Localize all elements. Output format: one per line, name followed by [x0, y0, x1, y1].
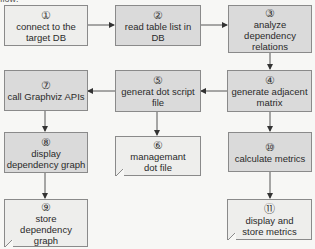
- step-number: ⑪: [264, 203, 275, 215]
- step-label: generate adjacent matrix: [228, 86, 312, 108]
- step-10-calculate-metrics: ⑩ calculate metrics: [228, 132, 312, 172]
- step-11-display-store-metrics: ⑪ display and store metrics: [227, 199, 312, 240]
- step-number: ②: [153, 9, 163, 21]
- step-number: ⑥: [153, 139, 163, 151]
- step-label: managemant dot file: [126, 151, 190, 173]
- step-number: ①: [41, 9, 51, 21]
- step-label: store dependency graph: [13, 213, 79, 246]
- step-label: read table list in DB: [120, 21, 196, 43]
- step-1-connect-db: ① connect to the target DB: [4, 5, 88, 46]
- step-label: display dependency graph: [3, 148, 89, 170]
- document-fold-icon: [4, 240, 13, 247]
- step-2-read-table-list: ② read table list in DB: [115, 5, 201, 46]
- step-label: call Graphviz APIs: [5, 91, 86, 102]
- document-fold-icon: [227, 233, 236, 240]
- step-number: ③: [265, 7, 275, 19]
- step-number: ⑦: [41, 79, 51, 91]
- step-label: display and store metrics: [235, 215, 305, 237]
- step-9-store-graph: ⑨ store dependency graph: [4, 199, 88, 247]
- step-number: ⑤: [153, 74, 163, 86]
- step-label: analyze dependency relations: [235, 19, 305, 52]
- step-number: ⑩: [265, 141, 275, 153]
- step-label: calculate metrics: [233, 153, 308, 164]
- step-label: generat dot script file: [116, 86, 200, 108]
- step-3-analyze-dependency: ③ analyze dependency relations: [228, 5, 312, 53]
- step-number: ④: [265, 74, 275, 86]
- step-6-manage-dot-file: ⑥ managemant dot file: [115, 136, 201, 176]
- step-number: ⑨: [41, 201, 51, 213]
- step-label: connect to the target DB: [9, 21, 83, 43]
- step-4-generate-adjacent-matrix: ④ generate adjacent matrix: [227, 70, 312, 112]
- step-5-generate-dot-script: ⑤ generat dot script file: [115, 70, 201, 112]
- step-number: ⑧: [41, 136, 51, 148]
- step-8-display-graph: ⑧ display dependency graph: [4, 132, 88, 173]
- step-7-call-graphviz: ⑦ call Graphviz APIs: [4, 70, 88, 111]
- document-fold-icon: [115, 169, 124, 176]
